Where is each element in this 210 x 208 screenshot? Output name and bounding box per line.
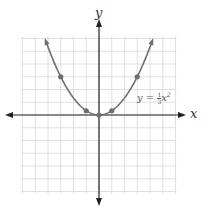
equation-lhs: y = xyxy=(137,92,157,103)
parabola-graph xyxy=(0,0,210,208)
equation-label: y = 13x2 xyxy=(137,91,171,105)
data-point xyxy=(135,74,140,79)
data-point xyxy=(58,74,63,79)
data-point xyxy=(84,108,89,113)
axes xyxy=(5,19,186,206)
data-point xyxy=(96,112,101,117)
data-point xyxy=(109,108,114,113)
y-axis-label: y xyxy=(95,5,102,20)
equation-exp: 2 xyxy=(167,91,171,98)
x-axis-label: x xyxy=(190,106,197,121)
